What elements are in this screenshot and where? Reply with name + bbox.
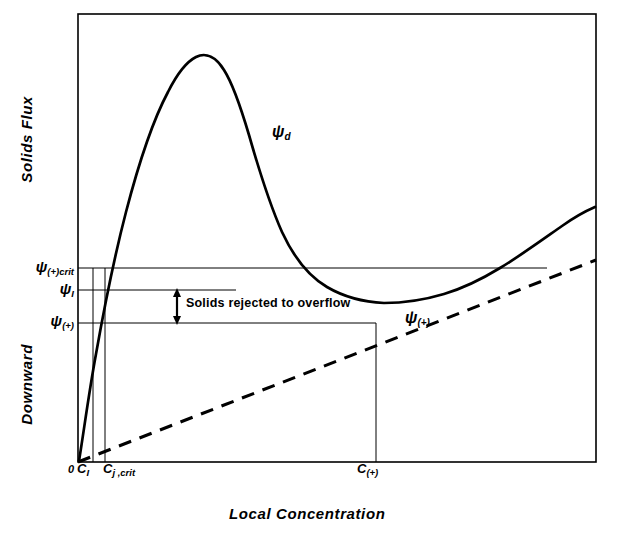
- c-j-crit-subscript: j ,crit: [112, 467, 135, 478]
- plot-canvas: [0, 0, 617, 539]
- x-axis-title-local-concentration: Local Concentration: [229, 505, 385, 522]
- c-base-glyph: C: [103, 461, 112, 476]
- c-base-glyph: C: [77, 461, 86, 476]
- psi-glyph: ψ: [51, 312, 63, 329]
- psi-glyph: ψ: [405, 309, 417, 326]
- y-tick-label-psi-plus-crit: ψ(+)crit: [0, 259, 74, 276]
- psi-glyph: ψ: [36, 258, 48, 275]
- c-base-glyph: C: [357, 461, 366, 476]
- x-tick-label-c-j-crit: Cj ,crit: [103, 462, 135, 477]
- y-tick-label-psi-plus: ψ(+): [0, 313, 74, 330]
- psi-i-subscript: I: [71, 288, 74, 299]
- psi-plus-subscript: (+): [62, 320, 74, 331]
- psi-d-subscript: d: [284, 131, 290, 142]
- psi-glyph: ψ: [272, 123, 284, 140]
- y-tick-label-psi-i: ψI: [0, 281, 74, 298]
- x-tick-label-origin: 0: [68, 464, 74, 475]
- annotation-solids-rejected-to-overflow: Solids rejected to overflow: [186, 296, 350, 310]
- c-i-subscript: I: [86, 467, 89, 478]
- psi-glyph: ψ: [60, 280, 72, 297]
- x-tick-label-c-i: CI: [77, 462, 89, 477]
- plot-frame: [78, 14, 596, 462]
- c-plus-subscript: (+): [366, 467, 378, 478]
- y-axis-title-downward: Downward: [18, 344, 35, 425]
- psi-plus-crit-subscript: (+)crit: [47, 266, 74, 277]
- x-tick-label-c-plus: C(+): [357, 462, 378, 477]
- curve-label-psi-plus: ψ(+): [405, 310, 430, 328]
- y-axis-title-solids-flux: Solids Flux: [18, 96, 35, 183]
- flux-curve-figure: Solids Flux Downward Local Concentration…: [0, 0, 617, 539]
- psi-plus-subscript: (+): [417, 317, 430, 328]
- curve-label-psi-d: ψd: [272, 124, 290, 142]
